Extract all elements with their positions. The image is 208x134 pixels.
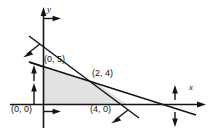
vertex-label-intersection: (2, 4) [92,69,113,78]
y-axis-direction-arrow-lower [31,83,37,104]
steep-line-direction-arrow-upper [23,44,40,57]
shallow-line-direction-arrow-down [172,112,178,127]
vertex-label-y-intercept: (0, 5) [44,55,65,64]
shallow-line-direction-arrow-up [172,85,178,100]
shallow-line-left-tick [29,62,44,67]
graph-figure-container: (0, 0) (0, 5) (2, 4) (4, 0) y x [0,0,208,134]
steep-line-direction-arrow-lower [111,110,128,123]
vertex-label-x-intercept: (4, 0) [90,105,111,114]
vertex-label-origin: (0, 0) [11,105,32,114]
y-axis-label: y [47,5,51,14]
y-axis-direction-arrow-upper [31,65,37,81]
x-axis-label: x [189,83,193,92]
y-axis-top-direction-arrow [44,16,61,22]
x-axis-direction-arrow [44,109,61,115]
